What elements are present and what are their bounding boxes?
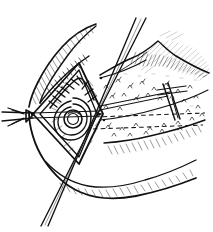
figure-svg: Surgical line drawing: diamond-shaped su… <box>0 0 213 232</box>
illustration-canvas: Surgical line drawing: diamond-shaped su… <box>0 0 213 232</box>
